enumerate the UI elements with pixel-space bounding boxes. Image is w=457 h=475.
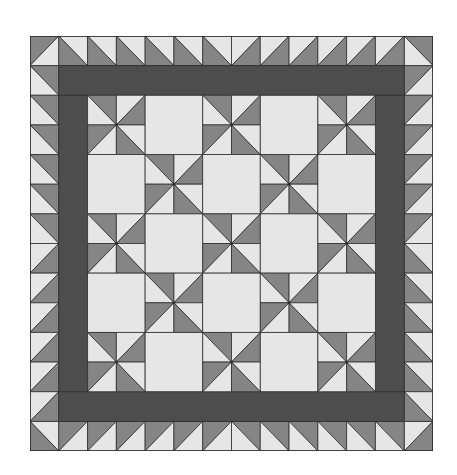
sashing-bottom <box>59 392 404 422</box>
plain-block <box>88 155 146 214</box>
sashing-left <box>59 95 88 391</box>
pinwheel-center-dot <box>288 301 291 304</box>
plain-block <box>203 155 261 214</box>
quilt-canvas <box>30 36 433 451</box>
pinwheel-block <box>203 332 261 391</box>
plain-block <box>88 273 146 332</box>
pinwheel-block <box>203 214 261 273</box>
pinwheel-center-dot <box>173 183 176 186</box>
pinwheel-center-dot <box>230 124 233 127</box>
plain-block <box>145 95 203 154</box>
plain-block <box>260 332 318 391</box>
pinwheel-block <box>260 273 318 332</box>
sashing-right <box>375 95 404 391</box>
pinwheel-block <box>318 95 376 154</box>
plain-block <box>318 273 376 332</box>
plain-block <box>260 214 318 273</box>
sashing-top <box>59 66 404 96</box>
plain-block <box>260 95 318 154</box>
pinwheel-center-dot <box>345 242 348 245</box>
pinwheel-center-dot <box>230 242 233 245</box>
pinwheel-block <box>88 332 146 391</box>
pinwheel-center-dot <box>173 301 176 304</box>
pinwheel-center-dot <box>345 124 348 127</box>
pinwheel-block <box>145 273 203 332</box>
quilt-diagram: Pinwheel quilt pattern with sawtooth bor… <box>30 36 433 451</box>
pinwheel-center-dot <box>345 361 348 364</box>
pinwheel-block <box>88 95 146 154</box>
plain-block <box>203 273 261 332</box>
pinwheel-block <box>88 214 146 273</box>
pinwheel-block <box>318 332 376 391</box>
plain-block <box>145 332 203 391</box>
pinwheel-center-dot <box>115 242 118 245</box>
pinwheel-block <box>203 95 261 154</box>
pinwheel-center-dot <box>230 361 233 364</box>
pinwheel-center-dot <box>288 183 291 186</box>
pinwheel-block <box>260 155 318 214</box>
pinwheel-block <box>318 214 376 273</box>
plain-block <box>318 155 376 214</box>
pinwheel-center-dot <box>115 361 118 364</box>
plain-block <box>145 214 203 273</box>
pinwheel-center-dot <box>115 124 118 127</box>
pinwheel-block <box>145 155 203 214</box>
